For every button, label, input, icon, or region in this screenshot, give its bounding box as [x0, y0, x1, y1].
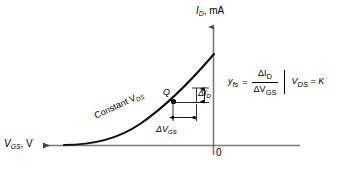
y-axis-label-unit: , mA [204, 5, 225, 16]
equation-condition-value: = K [310, 76, 324, 86]
transconductance-equation: yfs = ΔID ΔVGS VDS = K [228, 68, 324, 97]
equation-denominator: ΔVGS [252, 83, 279, 97]
equation-equals-sign: = [241, 77, 248, 87]
delta-id-symbol: ΔI [198, 88, 207, 98]
equation-denominator-symbol: ΔV [254, 84, 266, 94]
equation-fraction: ΔID ΔVGS [252, 68, 279, 97]
equation-lhs-subscript: fs [233, 80, 239, 89]
q-point-label: Q [163, 88, 170, 97]
origin-label: 0 [216, 148, 222, 158]
x-axis-label-symbol: V [4, 138, 11, 149]
equation-condition-subscript: DS [297, 80, 307, 89]
delta-vgs-subscript: GS [168, 128, 177, 135]
transfer-characteristic-figure: ID, mA VGS, V 0 Q ΔID ΔVGS Constant VDS … [0, 0, 338, 171]
y-axis-label-subscript: D [199, 10, 204, 17]
equation-numerator: ΔID [256, 68, 274, 82]
q-point-marker [171, 99, 176, 104]
equation-lhs: yfs [228, 76, 238, 89]
equation-condition: VDS = K [291, 76, 324, 89]
x-axis-label-subscript: GS [11, 143, 21, 150]
equation-denominator-subscript: GS [266, 88, 277, 97]
evaluation-bar [284, 70, 285, 94]
x-axis-label: VGS, V [4, 139, 33, 149]
equation-numerator-symbol: ΔI [258, 68, 267, 78]
equation-numerator-subscript: D [267, 72, 272, 81]
x-axis-label-unit: , V [21, 138, 33, 149]
y-axis-label: ID, mA [196, 6, 224, 16]
delta-id-label: ΔID [198, 89, 211, 98]
delta-vgs-label: ΔVGS [156, 125, 177, 134]
delta-id-subscript: D [207, 92, 211, 99]
delta-vgs-symbol: ΔV [156, 124, 168, 134]
